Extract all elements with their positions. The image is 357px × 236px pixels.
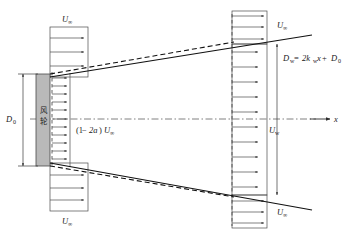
rotor-label-char-bottom: 轮 bbox=[40, 116, 48, 126]
svg-text:x: x bbox=[316, 53, 321, 63]
svg-text:=: = bbox=[294, 53, 299, 63]
label-freestream-top-right: U ∞ bbox=[277, 20, 287, 31]
svg-text:∞: ∞ bbox=[68, 19, 72, 25]
freestream-profile-bottom-left bbox=[50, 163, 88, 211]
axis-label-x: x bbox=[333, 114, 338, 124]
svg-text:∞: ∞ bbox=[283, 25, 287, 31]
svg-text:∞: ∞ bbox=[68, 221, 72, 227]
svg-text:−: − bbox=[82, 125, 87, 135]
rotor-diameter-dimension bbox=[18, 74, 38, 166]
label-freestream-bottom-right: U ∞ bbox=[277, 207, 287, 218]
rotor-diameter-sub: 0 bbox=[13, 119, 16, 125]
rotor-plane-profile bbox=[52, 72, 70, 168]
svg-text:2k: 2k bbox=[302, 53, 310, 63]
svg-text:∞: ∞ bbox=[110, 130, 114, 136]
rotor-label-char-top: 风 bbox=[40, 106, 48, 115]
svg-text:+: + bbox=[322, 53, 327, 63]
wake-diagram-figure: 风 轮 D 0 U ∞ U ∞ U ∞ U ∞ U w bbox=[0, 0, 357, 236]
freestream-profile-top-left bbox=[50, 27, 88, 77]
svg-text:0: 0 bbox=[338, 58, 341, 64]
wake-diameter-formula: D w = 2k w x + D 0 bbox=[282, 53, 341, 64]
freestream-profile-bottom-right bbox=[232, 195, 267, 228]
freestream-profile-top-right bbox=[232, 11, 267, 44]
svg-text:2a: 2a bbox=[89, 125, 98, 135]
svg-text:): ) bbox=[99, 125, 102, 135]
svg-text:∞: ∞ bbox=[283, 212, 287, 218]
label-wake-velocity: U w bbox=[269, 125, 280, 136]
label-induced-velocity: (1 − 2a ) U ∞ bbox=[76, 125, 114, 136]
label-freestream-bottom-left: U ∞ bbox=[62, 216, 72, 227]
label-freestream-top-left: U ∞ bbox=[62, 14, 72, 25]
wake-boundary-dashed bbox=[50, 42, 234, 197]
wake-profile-right bbox=[232, 44, 267, 195]
wake-diagram-canvas: 风 轮 D 0 U ∞ U ∞ U ∞ U ∞ U w bbox=[0, 0, 357, 236]
svg-text:D: D bbox=[282, 53, 290, 63]
wake-boundary-solid bbox=[50, 35, 312, 210]
svg-text:w: w bbox=[275, 130, 280, 136]
svg-text:D: D bbox=[330, 53, 338, 63]
rotor-diameter-label: D bbox=[5, 114, 13, 124]
